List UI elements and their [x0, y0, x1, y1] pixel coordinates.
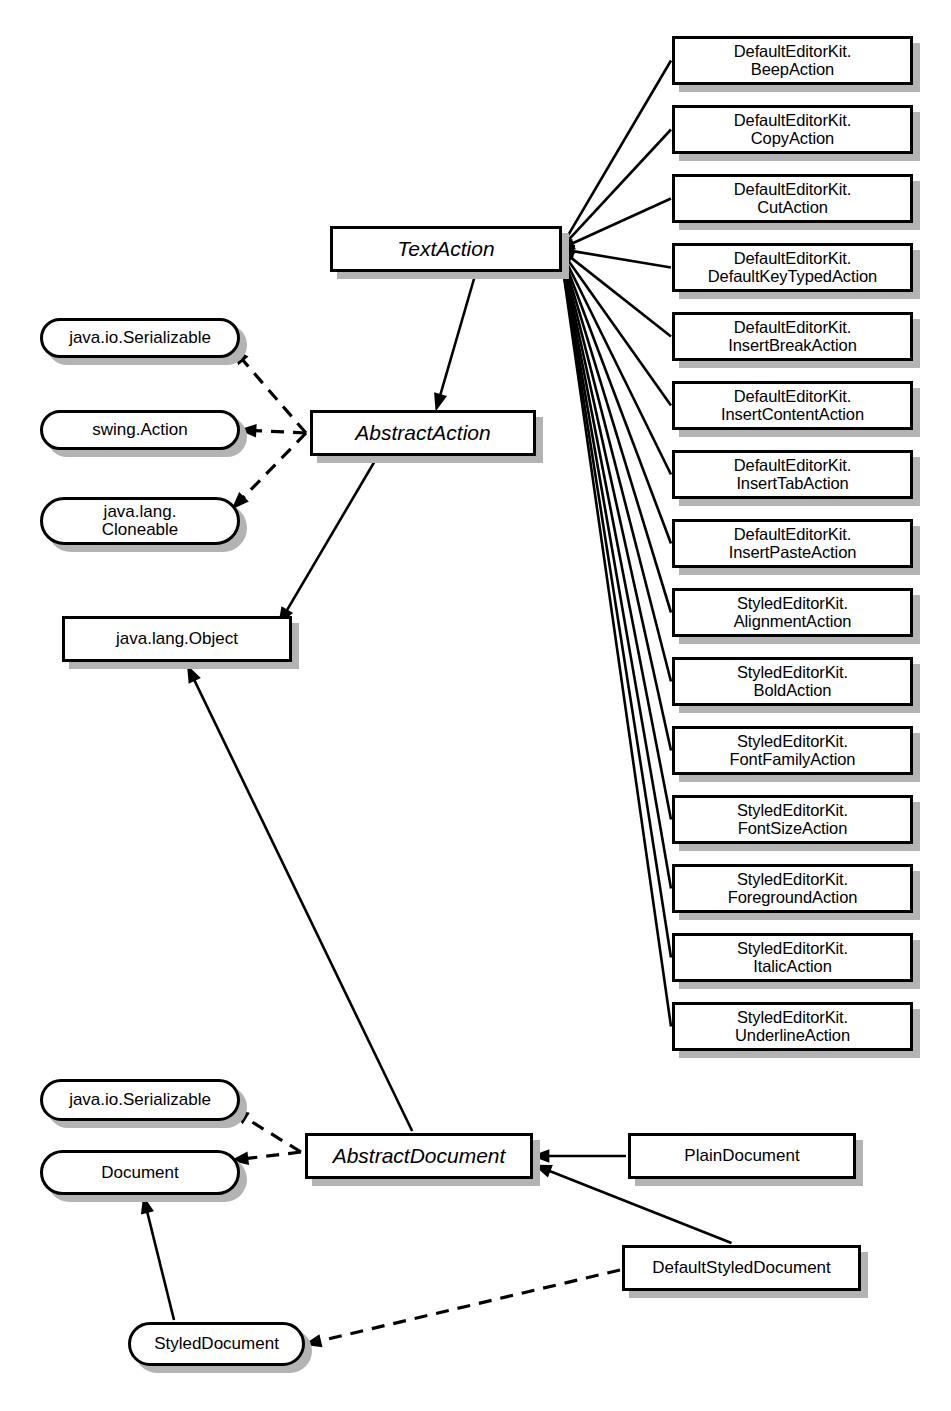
- uml-node-label: DefaultStyledDocument: [648, 1259, 835, 1277]
- uml-node-label: StyledEditorKit. ItalicAction: [733, 940, 852, 975]
- uml-edge-generalization: [560, 249, 671, 406]
- uml-edge-realization: [242, 426, 306, 436]
- uml-node-plaindocument[interactable]: PlainDocument: [628, 1133, 856, 1179]
- uml-class-diagram: TextActionAbstractActionjava.lang.Object…: [0, 0, 951, 1411]
- uml-node-label: swing.Action: [88, 421, 191, 439]
- uml-node-leaf-12[interactable]: StyledEditorKit. ForegroundAction: [672, 864, 913, 913]
- uml-edge-generalization: [557, 249, 671, 1027]
- uml-node-leaf-13[interactable]: StyledEditorKit. ItalicAction: [672, 933, 913, 982]
- uml-edge-generalization: [558, 249, 671, 820]
- uml-node-javalangobject[interactable]: java.lang.Object: [62, 616, 292, 662]
- uml-node-label: DefaultEditorKit. CutAction: [730, 181, 856, 216]
- uml-node-iface-serializable-1[interactable]: java.io.Serializable: [40, 318, 240, 358]
- uml-node-leaf-1[interactable]: DefaultEditorKit. CopyAction: [672, 105, 913, 154]
- uml-node-textaction[interactable]: TextAction: [330, 226, 562, 272]
- uml-node-iface-serializable-2[interactable]: java.io.Serializable: [40, 1079, 240, 1121]
- uml-node-iface-swing-action[interactable]: swing.Action: [40, 410, 240, 450]
- uml-node-leaf-6[interactable]: DefaultEditorKit. InsertTabAction: [672, 450, 913, 499]
- uml-node-label: DefaultEditorKit. DefaultKeyTypedAction: [704, 250, 881, 285]
- uml-edge-realization: [234, 1111, 301, 1152]
- uml-node-leaf-9[interactable]: StyledEditorKit. BoldAction: [672, 657, 913, 706]
- uml-node-leaf-4[interactable]: DefaultEditorKit. InsertBreakAction: [672, 312, 913, 361]
- uml-node-label: java.io.Serializable: [65, 329, 215, 347]
- uml-edge-generalization: [189, 668, 413, 1131]
- uml-edge-realization: [234, 433, 306, 507]
- uml-node-leaf-5[interactable]: DefaultEditorKit. InsertContentAction: [672, 381, 913, 430]
- uml-node-label: DefaultEditorKit. InsertPasteAction: [725, 526, 861, 561]
- uml-node-label: StyledDocument: [150, 1335, 283, 1353]
- uml-edge-realization: [307, 1270, 620, 1346]
- uml-node-label: Document: [97, 1164, 182, 1182]
- uml-edge-realization: [234, 1152, 301, 1163]
- uml-node-leaf-0[interactable]: DefaultEditorKit. BeepAction: [672, 36, 913, 85]
- uml-node-leaf-2[interactable]: DefaultEditorKit. CutAction: [672, 174, 913, 223]
- uml-node-label: java.io.Serializable: [65, 1091, 215, 1109]
- uml-edge-generalization: [142, 1199, 174, 1320]
- uml-node-label: DefaultEditorKit. InsertBreakAction: [724, 319, 861, 354]
- uml-node-label: AbstractAction: [351, 422, 494, 444]
- uml-node-label: StyledEditorKit. FontSizeAction: [733, 802, 852, 837]
- uml-edge-generalization: [559, 249, 671, 613]
- uml-edge-generalization: [435, 272, 476, 408]
- uml-node-label: DefaultEditorKit. InsertTabAction: [730, 457, 856, 492]
- uml-edge-realization: [234, 350, 306, 433]
- uml-node-leaf-10[interactable]: StyledEditorKit. FontFamilyAction: [672, 726, 913, 775]
- uml-edge-generalization: [560, 130, 671, 250]
- uml-node-leaf-8[interactable]: StyledEditorKit. AlignmentAction: [672, 588, 913, 637]
- uml-node-leaf-3[interactable]: DefaultEditorKit. DefaultKeyTypedAction: [672, 243, 913, 292]
- uml-edge-generalization: [560, 249, 671, 337]
- uml-edge-generalization: [280, 456, 378, 622]
- uml-node-label: StyledEditorKit. BoldAction: [733, 664, 852, 699]
- uml-node-label: StyledEditorKit. AlignmentAction: [730, 595, 856, 630]
- uml-node-label: java.lang. Cloneable: [98, 503, 183, 539]
- uml-node-leaf-7[interactable]: DefaultEditorKit. InsertPasteAction: [672, 519, 913, 568]
- uml-node-label: DefaultEditorKit. CopyAction: [730, 112, 856, 147]
- uml-node-leaf-14[interactable]: StyledEditorKit. UnderlineAction: [672, 1002, 913, 1051]
- uml-edge-generalization: [558, 249, 671, 682]
- uml-node-defaultstyleddocument[interactable]: DefaultStyledDocument: [622, 1245, 861, 1291]
- uml-node-label: StyledEditorKit. ForegroundAction: [724, 871, 862, 906]
- uml-edge-generalization: [560, 246, 671, 267]
- uml-node-label: java.lang.Object: [112, 630, 242, 648]
- uml-node-label: AbstractDocument: [329, 1145, 510, 1167]
- uml-node-label: TextAction: [393, 238, 498, 260]
- uml-edge-generalization: [560, 61, 671, 250]
- uml-node-label: StyledEditorKit. FontFamilyAction: [726, 733, 860, 768]
- uml-node-abstractaction[interactable]: AbstractAction: [310, 410, 536, 456]
- uml-node-leaf-11[interactable]: StyledEditorKit. FontSizeAction: [672, 795, 913, 844]
- uml-node-label: DefaultEditorKit. BeepAction: [730, 43, 856, 78]
- uml-node-iface-cloneable[interactable]: java.lang. Cloneable: [40, 497, 240, 545]
- uml-edge-generalization: [560, 249, 671, 475]
- uml-node-label: PlainDocument: [680, 1147, 803, 1165]
- uml-node-iface-document[interactable]: Document: [40, 1150, 240, 1195]
- uml-node-abstractdocument[interactable]: AbstractDocument: [305, 1133, 533, 1179]
- uml-edge-generalization: [535, 1151, 626, 1161]
- uml-edge-generalization: [557, 249, 671, 958]
- uml-node-label: DefaultEditorKit. InsertContentAction: [717, 388, 868, 423]
- uml-edge-generalization: [560, 199, 671, 250]
- uml-edge-generalization: [560, 249, 671, 544]
- uml-node-iface-styleddocument[interactable]: StyledDocument: [128, 1322, 305, 1366]
- uml-edge-generalization: [558, 249, 671, 751]
- uml-edge-generalization: [557, 249, 671, 889]
- uml-node-label: StyledEditorKit. UnderlineAction: [731, 1009, 854, 1044]
